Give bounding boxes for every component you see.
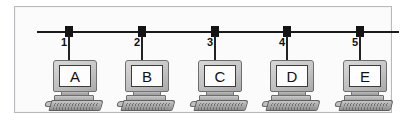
monitor-screen: E <box>349 65 381 87</box>
monitor-screen: D <box>276 65 308 87</box>
node-number-label: 4 <box>273 36 285 48</box>
computer-label: E <box>360 69 370 84</box>
node-number-label: 2 <box>128 36 140 48</box>
keyboard-icon <box>193 100 248 111</box>
node-number-label: 3 <box>201 36 213 48</box>
monitor-screen: B <box>131 65 163 87</box>
computer-label: D <box>287 69 298 84</box>
keyboard-icon <box>48 100 103 111</box>
computer-b: B <box>117 60 179 112</box>
computer-label: B <box>142 69 152 84</box>
node-number-label: 1 <box>55 36 67 48</box>
keyboard-icon <box>265 100 320 111</box>
computer-label: A <box>70 69 80 84</box>
computer-label: C <box>215 69 226 84</box>
computer-e: E <box>335 60 397 112</box>
computer-c: C <box>190 60 252 112</box>
node-number-label: 5 <box>346 36 358 48</box>
computer-d: D <box>262 60 324 112</box>
diagram-frame: 1 2 3 4 5 A <box>14 6 392 113</box>
computer-a: A <box>45 60 107 112</box>
monitor-screen: A <box>59 65 91 87</box>
bus-topology-figure: 1 2 3 4 5 A <box>0 0 410 123</box>
monitor-screen: C <box>204 65 236 87</box>
keyboard-icon <box>338 100 393 111</box>
keyboard-icon <box>120 100 175 111</box>
